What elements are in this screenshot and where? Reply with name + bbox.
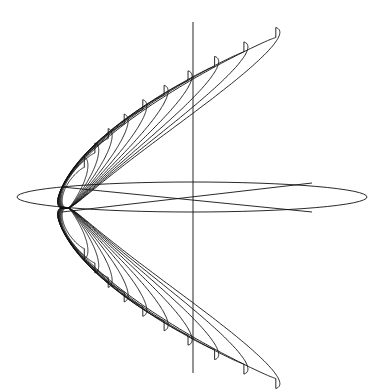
lower-lobe-10	[58, 207, 280, 388]
upper-lobe-4	[60, 114, 128, 208]
lower-lobe-6	[59, 208, 168, 331]
lower-lobes	[58, 207, 280, 388]
lower-lobe-4	[60, 208, 128, 302]
upper-lobe-6	[59, 85, 168, 208]
upper-lobe-10	[58, 28, 280, 209]
upper-lobes	[58, 28, 280, 209]
lobes-diagram	[0, 0, 383, 390]
cross-line-2	[62, 183, 312, 212]
cross-line-1	[62, 187, 312, 212]
